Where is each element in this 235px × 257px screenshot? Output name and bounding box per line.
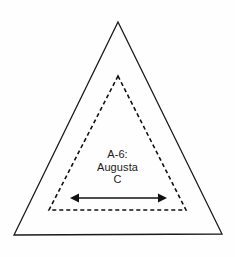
region-label-line-1: A-6: xyxy=(0,148,235,161)
triangle-diagram: A-6: Augusta C xyxy=(0,0,235,257)
canvas-background xyxy=(0,0,235,257)
region-label: A-6: Augusta C xyxy=(0,148,235,186)
diagram-canvas xyxy=(0,0,235,257)
region-label-line-2: Augusta xyxy=(0,161,235,174)
region-label-line-3: C xyxy=(0,173,235,186)
